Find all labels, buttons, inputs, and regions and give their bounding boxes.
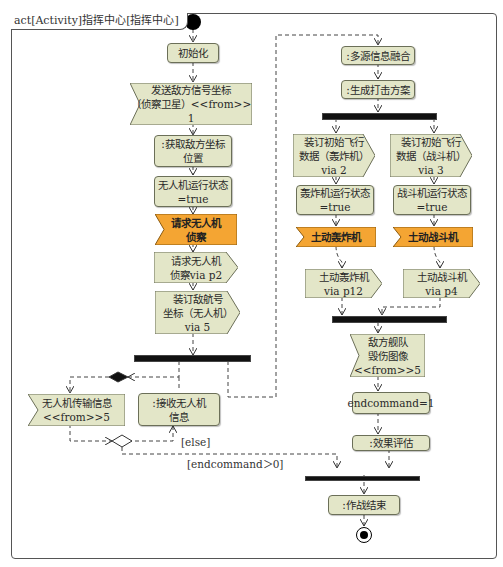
fork-bar-right: [322, 113, 437, 120]
action-effect-eval[interactable]: :效果评估: [352, 435, 430, 451]
signal-enemy-fleet-damage[interactable]: 敌方舰队 毁伤图像 <<from>>5: [350, 334, 425, 377]
send-launch-bomber-p12[interactable]: 土动轰炸机 via p12: [305, 269, 382, 298]
action-init[interactable]: 初始化: [167, 43, 219, 63]
fork-bar-left: [134, 355, 251, 362]
decision-diamond-filled: [109, 372, 128, 382]
signal-launch-bomber[interactable]: 土动轰炸机: [296, 227, 376, 247]
send-request-uav-recon-p2[interactable]: 请求无人机 侦察via p2: [154, 252, 238, 283]
join-bar-final: [305, 476, 420, 481]
signal-request-uav-recon[interactable]: 请求无人机 侦察: [155, 214, 237, 245]
decision-diamond: [112, 435, 132, 447]
action-bomber-state[interactable]: 轰炸机运行状态 =true: [296, 185, 374, 215]
signal-send-enemy-coords[interactable]: 发送敌方信号坐标 （侦察卫星）<<from>> 1: [130, 83, 252, 125]
frame-title: act[Activity]指挥中心[指挥中心]: [11, 13, 188, 30]
send-bind-track-coords[interactable]: 装订敌航号 坐标（无人机） via 5: [155, 291, 240, 334]
action-endcommand[interactable]: endcommand=1: [352, 392, 430, 414]
action-get-enemy-position[interactable]: :获取敌方坐标 位置: [154, 135, 232, 167]
action-end-operation[interactable]: :作战结束: [328, 495, 400, 515]
action-multi-source-fusion[interactable]: :多源信息融合: [341, 46, 415, 65]
action-fighter-state[interactable]: 战斗机运行状态 =true: [393, 185, 471, 215]
signal-uav-transmit-info[interactable]: 无人机传输信息 <<from>>5: [28, 394, 125, 426]
signal-launch-fighter[interactable]: 土动战斗机: [393, 227, 473, 247]
send-bind-fighter-data[interactable]: 装订初始飞行 数据（战斗机） via 3: [390, 134, 472, 177]
send-launch-fighter-p4[interactable]: 土动战斗机 via p4: [403, 269, 480, 298]
action-uav-state[interactable]: 无人机运行状态 =true: [154, 176, 232, 207]
guard-endcommand: [endcommand＞0]: [187, 456, 283, 471]
join-bar-right: [332, 316, 447, 323]
action-receive-uav-info[interactable]: :接收无人机 信息: [138, 393, 220, 426]
send-bind-bomber-data[interactable]: 装订初始飞行 数据（轰炸机） via 2: [293, 134, 375, 177]
action-generate-strike-plan[interactable]: :生成打击方案: [341, 80, 415, 99]
final-node: [356, 527, 372, 543]
guard-else: [else]: [181, 436, 210, 448]
